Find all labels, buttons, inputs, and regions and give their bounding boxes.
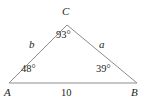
angle-label-at-a: 48° (21, 64, 36, 75)
side-label-base: 10 (61, 88, 72, 99)
triangle-shape (0, 0, 146, 107)
angle-label-at-c: 93° (56, 30, 71, 41)
vertex-label-b: B (131, 87, 138, 98)
angle-label-at-b: 39° (96, 64, 111, 75)
vertex-label-c: C (62, 6, 69, 17)
triangle-figure: C A B 93° 48° 39° b a 10 (0, 0, 146, 107)
side-label-a: a (99, 39, 105, 50)
side-label-b: b (29, 39, 35, 50)
vertex-label-a: A (4, 87, 11, 98)
